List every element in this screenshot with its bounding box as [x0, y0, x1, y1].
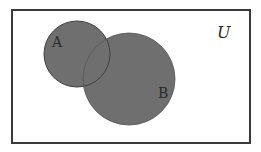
- venn-diagram: A B U: [0, 0, 261, 152]
- universe-label: U: [217, 23, 231, 42]
- set-b-circle: [83, 33, 175, 125]
- set-a-label: A: [51, 34, 63, 50]
- set-b-label: B: [158, 85, 168, 101]
